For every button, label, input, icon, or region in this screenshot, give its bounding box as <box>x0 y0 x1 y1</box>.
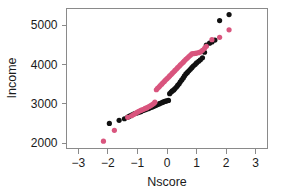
series-black <box>107 12 232 126</box>
data-point <box>152 100 157 105</box>
x-tick-label: 3 <box>252 156 259 170</box>
data-point <box>226 12 231 17</box>
data-point <box>204 44 209 49</box>
y-tick-label: 2000 <box>31 136 58 150</box>
y-tick-label: 3000 <box>31 97 58 111</box>
x-tick-label: −3 <box>71 156 85 170</box>
y-tick-label: 5000 <box>31 18 58 32</box>
scatter-plot-canvas: −3−2−10123 2000300040005000 Nscore Incom… <box>0 0 286 190</box>
x-tick-label: 1 <box>193 156 200 170</box>
y-axis-title: Income <box>5 57 19 98</box>
x-tick-label: 2 <box>223 156 230 170</box>
series-pink <box>101 27 232 144</box>
x-axis-tick-labels: −3−2−10123 <box>71 156 259 170</box>
data-point <box>117 118 122 123</box>
data-point <box>226 27 231 32</box>
data-point <box>200 55 205 60</box>
data-point <box>217 18 222 23</box>
x-axis-title: Nscore <box>147 175 187 189</box>
data-points-layer <box>101 12 232 144</box>
data-point <box>112 128 117 133</box>
data-point <box>217 35 222 40</box>
x-tick-label: 0 <box>164 156 171 170</box>
data-point <box>101 139 106 144</box>
qq-plot-figure: −3−2−10123 2000300040005000 Nscore Incom… <box>0 0 286 190</box>
data-point <box>209 37 214 42</box>
data-point <box>107 121 112 126</box>
x-axis-ticks <box>78 149 255 154</box>
data-point <box>166 98 171 103</box>
x-tick-label: −2 <box>101 156 115 170</box>
y-axis-tick-labels: 2000300040005000 <box>31 18 58 150</box>
x-tick-label: −1 <box>131 156 145 170</box>
y-tick-label: 4000 <box>31 58 58 72</box>
y-axis-ticks <box>62 25 67 143</box>
